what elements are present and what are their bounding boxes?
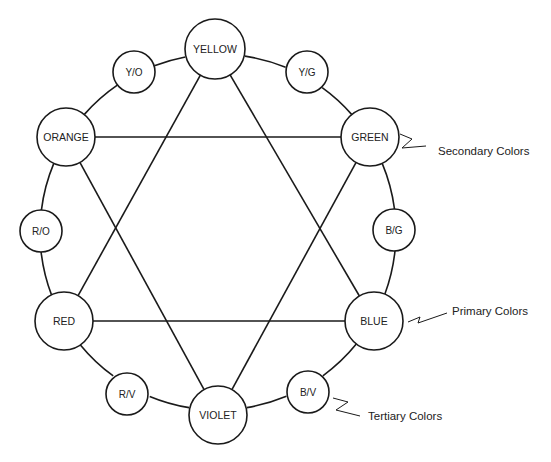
node-label: R/V	[119, 389, 136, 400]
color-node-yellow: YELLOW	[185, 19, 245, 79]
node-label: Y/G	[298, 67, 315, 78]
node-label: GREEN	[351, 131, 388, 143]
callout-squiggle-primary	[408, 313, 447, 323]
wheel-arc	[80, 345, 113, 376]
node-label: B/G	[385, 225, 402, 236]
color-node-yo: Y/O	[113, 51, 155, 93]
color-node-violet: VIOLET	[189, 386, 247, 444]
callouts: Secondary Colors Primary Colors Tertiary…	[333, 134, 530, 422]
color-node-green: GREEN	[341, 108, 399, 166]
node-label: Y/O	[125, 67, 142, 78]
color-wheel-diagram: YELLOWY/GGREENB/GBLUEB/VVIOLETR/VREDR/OO…	[0, 0, 551, 462]
color-node-rv: R/V	[106, 373, 148, 415]
wheel-arc	[247, 396, 287, 407]
node-label: RED	[53, 315, 76, 327]
wheel-arc	[245, 56, 286, 67]
node-label: ORANGE	[43, 131, 89, 143]
wheel-arc	[385, 251, 395, 294]
wheel-arc	[154, 57, 185, 66]
wheel-arc	[323, 344, 356, 376]
triangle-lines	[78, 75, 359, 390]
wheel-arc	[150, 396, 189, 407]
callout-squiggle-secondary	[400, 134, 426, 148]
color-node-yg: Y/G	[286, 51, 328, 93]
wheel-arc	[84, 85, 117, 114]
wheel-ring	[41, 56, 395, 408]
node-label: R/O	[32, 226, 50, 237]
color-node-orange: ORANGE	[37, 108, 95, 166]
callout-label-tertiary: Tertiary Colors	[368, 410, 442, 422]
node-label: B/V	[300, 387, 316, 398]
secondary-triangle-edge	[80, 162, 204, 389]
node-label: VIOLET	[199, 409, 237, 421]
color-node-blue: BLUE	[345, 292, 403, 350]
primary-triangle-edge	[230, 75, 359, 296]
node-label: YELLOW	[193, 43, 237, 55]
wheel-arc	[382, 163, 394, 209]
color-node-bg: B/G	[373, 209, 415, 251]
callout-squiggle-tertiary	[333, 398, 360, 416]
callout-label-primary: Primary Colors	[452, 305, 528, 317]
color-node-ro: R/O	[20, 210, 62, 252]
node-label: BLUE	[360, 315, 387, 327]
wheel-arc	[322, 88, 351, 115]
wheel-arc	[41, 252, 51, 295]
wheel-arc	[41, 163, 53, 210]
color-node-bv: B/V	[287, 371, 329, 413]
callout-label-secondary: Secondary Colors	[438, 145, 530, 157]
primary-triangle-edge	[78, 75, 200, 295]
secondary-triangle-edge	[232, 162, 356, 389]
color-nodes: YELLOWY/GGREENB/GBLUEB/VVIOLETR/VREDR/OO…	[20, 19, 415, 444]
color-node-red: RED	[35, 292, 93, 350]
